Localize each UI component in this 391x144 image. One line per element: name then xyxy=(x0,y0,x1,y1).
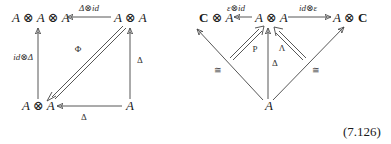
node-left-C: C xyxy=(199,10,208,25)
commutative-diagrams: A ⊗ A ⊗ A A ⊗ A A ⊗ A A Δ⊗id id⊗Δ Δ Δ Φ … xyxy=(0,0,391,144)
label-iso-right: ≅ xyxy=(312,65,320,75)
label-id-tensor-epsilon: id⊗ε xyxy=(299,3,318,13)
label-delta-tensor-id: Δ⊗id xyxy=(78,3,99,13)
label-lambda: Λ xyxy=(279,43,286,53)
label-epsilon-tensor-id: ε⊗id xyxy=(227,3,246,13)
equation-number: (7.126) xyxy=(343,124,381,139)
node-top-right: A ⊗ A xyxy=(113,10,147,25)
label-P: P xyxy=(252,44,257,54)
node-top-left: A ⊗ A ⊗ A xyxy=(11,10,70,25)
label-id-tensor-delta: id⊗Δ xyxy=(13,52,33,62)
node-bottom-right: A xyxy=(125,98,134,113)
arrow-iso-right xyxy=(273,27,344,100)
label-phi: Φ xyxy=(75,44,82,54)
double-arrow-P xyxy=(230,26,264,60)
double-arrow-phi xyxy=(47,26,126,101)
label-delta-bottom: Δ xyxy=(81,112,87,122)
label-delta-vertical: Δ xyxy=(272,58,278,68)
node-center: A ⊗ A xyxy=(254,10,288,25)
label-iso-left: ≅ xyxy=(214,65,222,75)
node-right-C: C xyxy=(358,10,367,25)
node-right: A ⊗ C xyxy=(332,10,368,25)
node-bottom: A xyxy=(264,98,273,113)
label-delta-right: Δ xyxy=(137,55,143,65)
left-diagram: A ⊗ A ⊗ A A ⊗ A A ⊗ A A Δ⊗id id⊗Δ Δ Δ Φ xyxy=(11,3,147,122)
node-bottom-left: A ⊗ A xyxy=(21,98,55,113)
right-diagram: C ⊗ A A ⊗ A A ⊗ C A ε⊗id id⊗ε ≅ ≅ Δ P xyxy=(197,3,368,113)
